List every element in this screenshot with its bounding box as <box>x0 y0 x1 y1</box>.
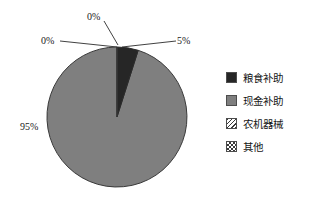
chart-legend: 粮食补助 现金补助 农机器械 其他 <box>226 66 310 158</box>
leader-line-top <box>104 21 118 45</box>
chart-plot-area: 0% 0% 5% 95% <box>0 0 215 207</box>
legend-label-grain-subsidy: 粮食补助 <box>243 72 283 84</box>
legend-item-farm-machinery[interactable]: 农机器械 <box>226 112 310 135</box>
data-label-other: 0% <box>41 35 54 46</box>
legend-label-cash-subsidy: 现金补助 <box>243 95 283 107</box>
leader-line-left <box>60 41 117 47</box>
data-label-cash-subsidy: 95% <box>20 121 38 132</box>
data-label-farm-machinery: 0% <box>87 11 100 22</box>
legend-swatch-icon-cash-subsidy <box>226 95 237 106</box>
legend-swatch-icon-farm-machinery <box>226 118 237 129</box>
legend-swatch-icon-other <box>226 141 237 152</box>
legend-swatch-icon-grain-subsidy <box>226 72 237 83</box>
pie-chart-figure: 0% 0% 5% 95% 粮食补助 现金补助 农机器械 其他 <box>0 0 312 207</box>
legend-label-other: 其他 <box>243 141 263 153</box>
legend-item-grain-subsidy[interactable]: 粮食补助 <box>226 66 310 89</box>
leader-line-right <box>122 41 176 47</box>
data-label-grain-subsidy: 5% <box>177 35 190 46</box>
legend-item-other[interactable]: 其他 <box>226 135 310 158</box>
leader-lines <box>60 21 176 47</box>
legend-label-farm-machinery: 农机器械 <box>243 118 283 130</box>
pie-svg <box>0 0 215 207</box>
legend-item-cash-subsidy[interactable]: 现金补助 <box>226 89 310 112</box>
